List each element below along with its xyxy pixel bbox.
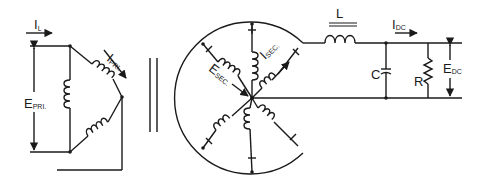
il-label: IL (34, 17, 42, 32)
inductor-icon (325, 36, 355, 44)
esec-arrow-icon (232, 84, 248, 96)
coil-icon (64, 80, 70, 108)
isec-arrow-icon (272, 62, 289, 80)
transformer-core (150, 58, 157, 132)
capacitor-label: C (371, 67, 380, 82)
coil-icon (244, 108, 250, 129)
isec-label: ISEC. (257, 37, 282, 62)
secondary-winding: ISEC. ESEC. (175, 22, 462, 174)
idc-label: IDC (392, 17, 406, 32)
epri-label: EPRI. (24, 96, 46, 111)
rectifier-circuit-diagram: IL EPRI. IPRI. (0, 0, 481, 185)
dc-filter: L IDC C R EDC (325, 6, 462, 100)
resistor-label: R (414, 74, 423, 89)
coil-icon (212, 114, 230, 130)
esec-label: ESEC. (206, 61, 235, 88)
coil-icon (85, 117, 108, 136)
resistor-icon (424, 58, 432, 84)
inductor-label: L (336, 6, 343, 21)
primary-winding: IL EPRI. IPRI. (24, 17, 127, 170)
coil-icon (258, 72, 276, 88)
coil-icon (252, 52, 258, 80)
coil-icon (258, 103, 276, 119)
edc-label: EDC (443, 61, 462, 76)
